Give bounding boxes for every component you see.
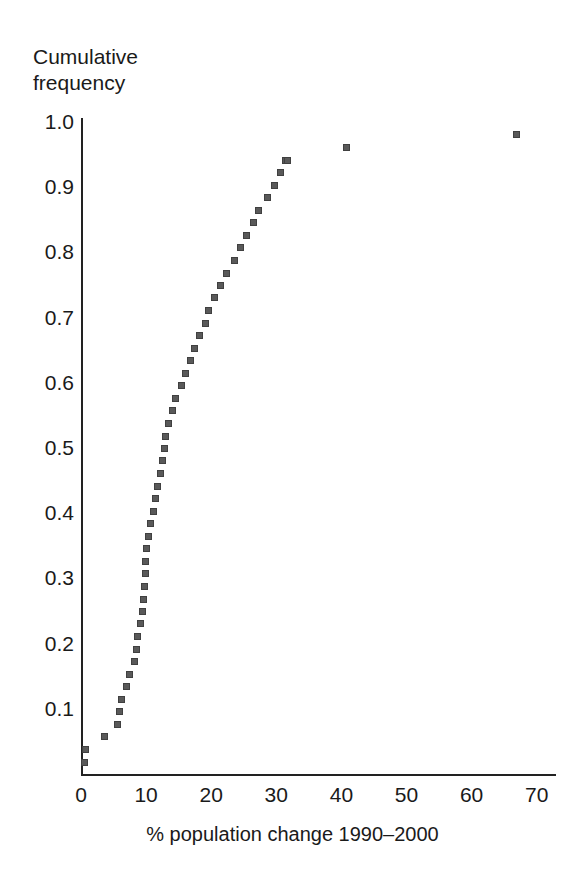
data-point — [147, 520, 154, 527]
y-axis-tick-labels: 0.10.20.30.40.50.60.70.80.91.0 — [22, 0, 74, 873]
x-axis-tick-label: 70 — [513, 783, 561, 807]
data-point — [172, 395, 179, 402]
data-point — [118, 696, 125, 703]
y-axis-tick-label: 0.8 — [28, 241, 74, 262]
data-point — [243, 232, 250, 239]
data-point — [205, 307, 212, 314]
x-axis-line — [81, 774, 556, 776]
data-point — [237, 244, 244, 251]
data-point — [165, 420, 172, 427]
data-point — [162, 433, 169, 440]
data-point — [161, 445, 168, 452]
data-point — [123, 683, 130, 690]
x-axis-tick-label: 30 — [252, 783, 300, 807]
y-axis-line — [81, 118, 83, 776]
plot-area: 010203040506070 — [0, 0, 585, 873]
data-point — [211, 294, 218, 301]
y-axis-tick-label: 0.3 — [28, 567, 74, 588]
data-point — [142, 558, 149, 565]
data-point — [133, 646, 140, 653]
y-axis-tick-label: 0.1 — [28, 698, 74, 719]
data-point — [513, 131, 520, 138]
data-point — [157, 470, 164, 477]
data-point — [145, 533, 152, 540]
data-point — [182, 370, 189, 377]
data-point — [154, 483, 161, 490]
cumulative-frequency-chart: Cumulative frequency 0.10.20.30.40.50.60… — [0, 0, 585, 873]
data-point — [159, 457, 166, 464]
data-point — [178, 382, 185, 389]
data-point — [150, 508, 157, 515]
data-point — [250, 219, 257, 226]
data-point — [152, 495, 159, 502]
data-point — [116, 708, 123, 715]
data-point — [223, 270, 230, 277]
data-point — [282, 157, 289, 164]
data-point — [139, 608, 146, 615]
x-axis-tick-label: 50 — [383, 783, 431, 807]
data-point — [140, 596, 147, 603]
y-axis-tick-label: 0.4 — [28, 502, 74, 523]
data-point — [169, 407, 176, 414]
y-axis-tick-label: 0.9 — [28, 176, 74, 197]
data-point — [131, 658, 138, 665]
data-point — [137, 620, 144, 627]
data-point — [217, 282, 224, 289]
data-point — [101, 733, 108, 740]
data-point — [231, 257, 238, 264]
data-point — [202, 320, 209, 327]
data-point — [284, 157, 291, 164]
x-axis-tick-label: 10 — [122, 783, 170, 807]
y-axis-tick-label: 0.7 — [28, 307, 74, 328]
data-point — [187, 357, 194, 364]
y-axis-tick-label: 0.2 — [28, 633, 74, 654]
data-point — [143, 545, 150, 552]
data-point — [142, 570, 149, 577]
y-axis-tick-label: 0.5 — [28, 437, 74, 458]
data-point — [255, 207, 262, 214]
data-point — [264, 194, 271, 201]
data-point — [343, 144, 350, 151]
data-point — [271, 182, 278, 189]
data-point — [277, 169, 284, 176]
x-axis-tick-label: 20 — [187, 783, 235, 807]
y-axis-tick-label: 0.6 — [28, 372, 74, 393]
data-point — [191, 345, 198, 352]
data-point — [141, 583, 148, 590]
data-point — [196, 332, 203, 339]
data-point — [134, 633, 141, 640]
x-axis-tick-label: 40 — [317, 783, 365, 807]
data-point — [114, 721, 121, 728]
x-axis-tick-label: 60 — [448, 783, 496, 807]
x-axis-title: % population change 1990–2000 — [0, 822, 585, 846]
data-point — [126, 671, 133, 678]
y-axis-tick-label: 1.0 — [28, 111, 74, 132]
